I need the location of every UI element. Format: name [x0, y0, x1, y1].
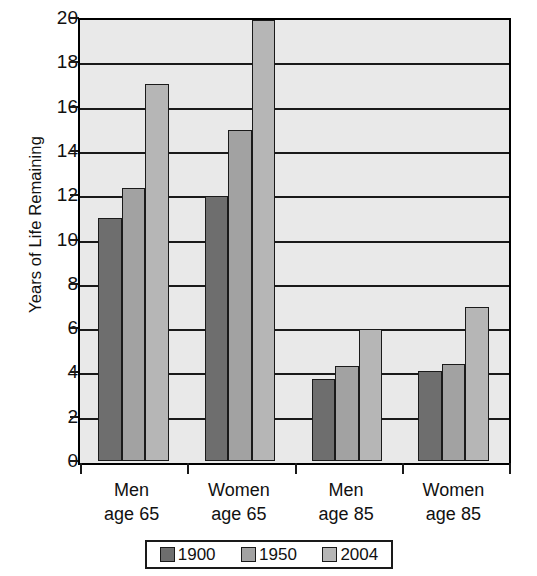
x-tick-mark	[509, 463, 511, 474]
legend-swatch-icon	[241, 547, 256, 562]
bar-group	[80, 20, 187, 461]
x-axis-label-line2: age 85	[400, 502, 507, 526]
bar-group	[294, 20, 401, 461]
legend-item-1900[interactable]: 1900	[160, 546, 216, 563]
bar-1950-women-age-65	[228, 130, 252, 461]
x-axis-tick-marks	[78, 463, 511, 475]
bar-1900-men-age-65	[98, 218, 122, 461]
bar-group	[187, 20, 294, 461]
bars-layer	[80, 20, 507, 461]
legend-swatch-icon	[160, 547, 175, 562]
bar-1900-women-age-65	[205, 196, 229, 461]
x-tick-mark	[295, 463, 297, 474]
bar-group	[400, 20, 507, 461]
bar-1950-women-age-85	[442, 364, 466, 461]
y-axis-tick-labels: 20181614121086420	[0, 18, 78, 461]
bar-2004-men-age-65	[145, 84, 169, 461]
x-tick-mark	[187, 463, 189, 474]
legend-swatch-icon	[322, 547, 337, 562]
x-axis-label-line1: Women	[400, 478, 507, 502]
x-tick-mark	[80, 463, 82, 474]
x-axis-label-line1: Men	[293, 478, 400, 502]
legend-label: 2004	[340, 546, 378, 563]
x-axis-label: Menage 65	[78, 478, 185, 526]
x-axis-label: Menage 85	[293, 478, 400, 526]
bar-1950-men-age-65	[122, 188, 146, 461]
bar-chart: Years of Life Remaining 2018161412108642…	[0, 0, 537, 576]
x-tick-mark	[402, 463, 404, 474]
x-axis-label-line2: age 65	[78, 502, 185, 526]
x-axis-label-line1: Men	[78, 478, 185, 502]
x-axis-label-line2: age 85	[293, 502, 400, 526]
legend-item-2004[interactable]: 2004	[322, 546, 378, 563]
legend-label: 1900	[178, 546, 216, 563]
bar-1900-men-age-85	[312, 379, 336, 461]
bar-2004-women-age-85	[465, 307, 489, 461]
x-axis-label-line1: Women	[185, 478, 292, 502]
x-axis-labels: Menage 65Womenage 65Menage 85Womenage 85	[78, 478, 507, 534]
x-axis-label: Womenage 85	[400, 478, 507, 526]
bar-1900-women-age-85	[418, 371, 442, 461]
legend: 190019502004	[145, 540, 393, 569]
bar-1950-men-age-85	[335, 366, 359, 461]
bar-2004-men-age-85	[359, 329, 383, 461]
bar-2004-women-age-65	[252, 20, 276, 461]
x-axis-label: Womenage 65	[185, 478, 292, 526]
legend-label: 1950	[259, 546, 297, 563]
legend-item-1950[interactable]: 1950	[241, 546, 297, 563]
x-axis-label-line2: age 65	[185, 502, 292, 526]
